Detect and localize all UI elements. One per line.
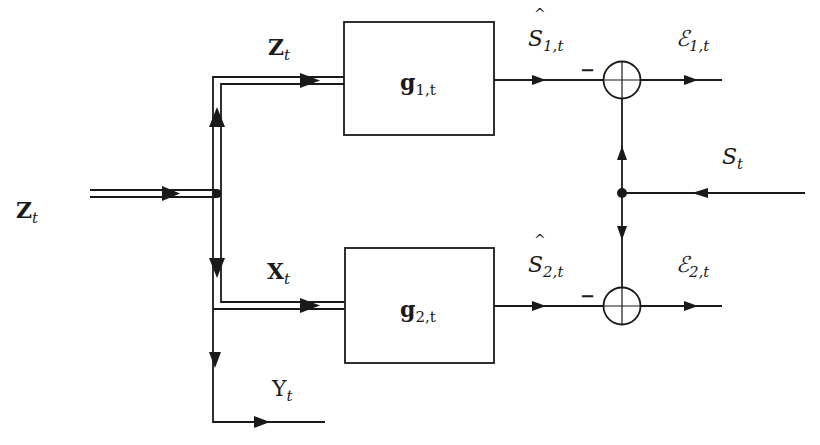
- arrow-right-icon: [254, 416, 270, 428]
- estimate2-label: ^ S2,t: [528, 232, 564, 281]
- summer-1: [604, 62, 641, 99]
- arrow-left-icon: [692, 188, 708, 198]
- svg-text:S2,t: S2,t: [528, 252, 564, 281]
- input-label: Zt: [16, 197, 39, 227]
- arrow-right-icon: [532, 75, 546, 85]
- bottom-branch-label: Xt: [267, 258, 291, 288]
- arrow-right-icon: [532, 301, 546, 311]
- side-output-label: Yt: [271, 376, 294, 405]
- svg-text:S1,t: S1,t: [528, 26, 564, 55]
- block-g1: [344, 22, 494, 135]
- top-branch-label: Zt: [268, 34, 291, 64]
- summer1-sign: −: [580, 59, 595, 80]
- input-double-line: [90, 186, 216, 201]
- summer2-sign: −: [580, 285, 595, 306]
- error1-label: ℰ1,t: [676, 26, 710, 55]
- arrow-up-icon: [209, 107, 225, 127]
- arrow-right-icon: [300, 73, 320, 88]
- arrow-right-icon: [684, 75, 698, 85]
- arrow-down-icon: [209, 352, 221, 368]
- block-diagram: Zt Zt Xt Yt g1,t g2,t ^ S1,t ^ S2,t − − …: [0, 0, 820, 445]
- svg-text:^: ^: [534, 6, 546, 22]
- arrow-right-icon: [300, 298, 320, 313]
- reference-label: St: [722, 144, 744, 173]
- arrow-right-icon: [684, 301, 698, 311]
- summer-2: [604, 288, 641, 325]
- arrow-right-icon: [162, 186, 180, 201]
- svg-text:^: ^: [534, 232, 546, 248]
- junction-dot-right: [617, 188, 627, 198]
- vertical-bus: [209, 73, 344, 428]
- arrow-down-icon: [617, 226, 627, 240]
- error2-label: ℰ2,t: [676, 252, 710, 281]
- estimate1-label: ^ S1,t: [528, 6, 564, 55]
- arrow-up-icon: [617, 146, 627, 160]
- block-g2: [345, 248, 494, 363]
- reference-lines: [617, 98, 805, 288]
- arrow-down-icon: [209, 258, 225, 278]
